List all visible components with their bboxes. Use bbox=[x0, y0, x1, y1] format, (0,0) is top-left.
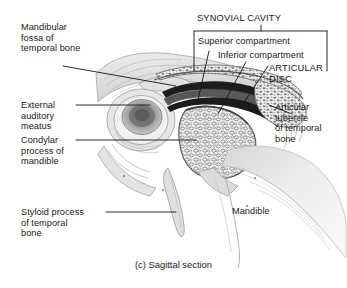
label-articular-tubercle: Articular tubercle of temporal bone bbox=[275, 102, 321, 144]
label-condylar-process: Condylar process of mandible bbox=[21, 135, 64, 167]
label-synovial-cavity: SYNOVIAL CAVITY bbox=[197, 13, 281, 24]
label-superior-compartment: Superior compartment bbox=[198, 36, 290, 47]
label-mandibular-fossa: Mandibular fossa of temporal bone bbox=[21, 22, 80, 54]
label-styloid-process: Styloid process of temporal bone bbox=[21, 207, 84, 239]
label-inferior-compartment: Inferior compartment bbox=[218, 50, 304, 61]
label-articular-disc: ARTICULAR DISC bbox=[269, 63, 323, 84]
label-mandible: Mandible bbox=[232, 206, 270, 217]
label-external-auditory-meatus: External auditory meatus bbox=[21, 100, 55, 132]
figure-caption: (c) Sagittal section bbox=[0, 259, 347, 270]
